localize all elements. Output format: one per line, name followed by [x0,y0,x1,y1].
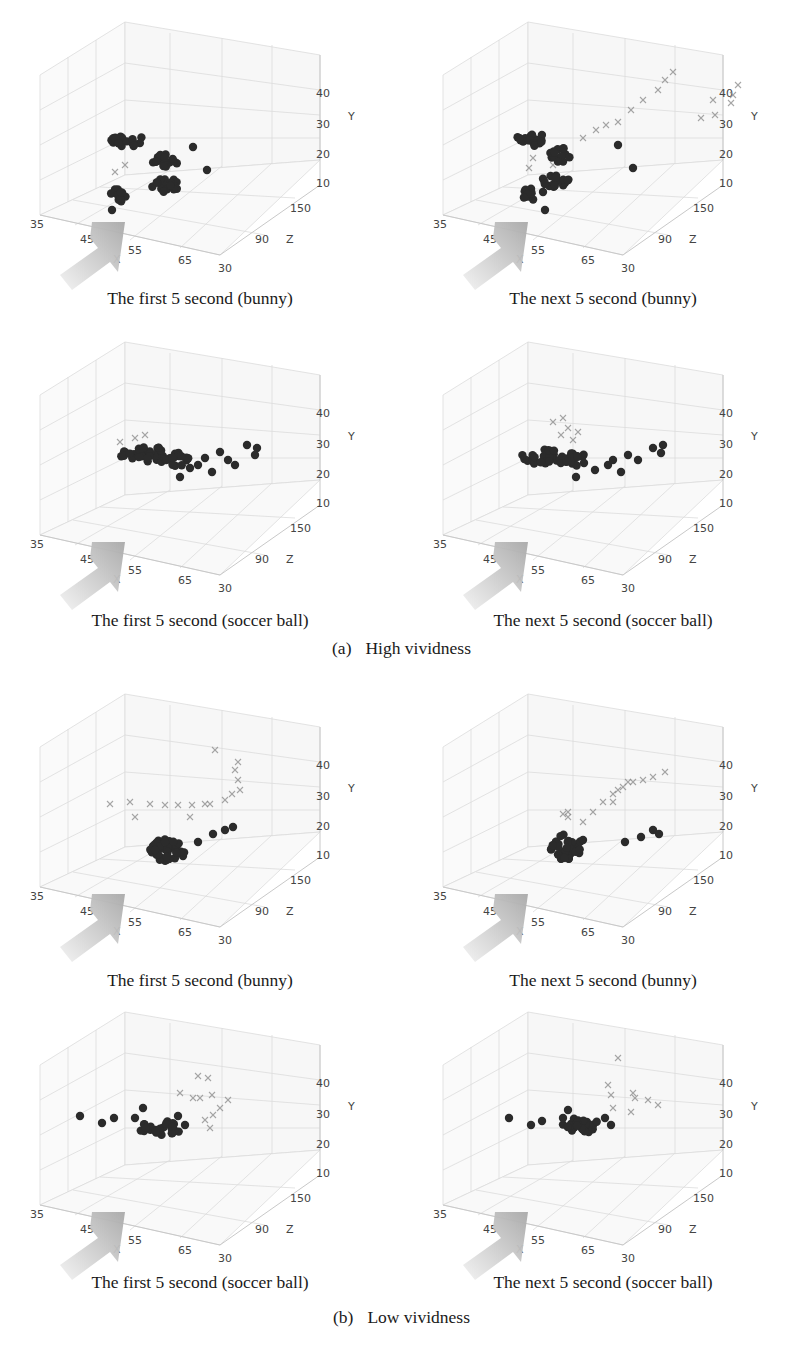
circle-marker [576,845,584,853]
svg-text:10: 10 [719,497,733,510]
viewer-arrow-icon [463,542,528,610]
svg-text:150: 150 [290,202,311,215]
svg-text:55: 55 [531,244,545,257]
svg-text:30: 30 [719,438,733,451]
svg-text:65: 65 [581,574,595,587]
circle-marker [593,1118,601,1126]
circle-marker [601,1114,609,1122]
circle-marker [155,444,163,452]
svg-text:90: 90 [255,1223,269,1236]
svg-text:150: 150 [290,522,311,535]
circle-marker [169,155,177,163]
circle-marker [617,468,625,476]
y-tick-labels: 10 20 30 40 Y [316,1077,355,1180]
circle-marker [591,466,599,474]
circle-marker [251,451,259,459]
circle-marker [152,1127,160,1135]
circle-marker [550,148,558,156]
svg-text:55: 55 [531,916,545,929]
svg-text:Y: Y [347,110,355,123]
circle-marker [550,446,558,454]
svg-text:20: 20 [316,1138,330,1151]
circle-marker [564,176,572,184]
svg-text:10: 10 [316,177,330,190]
scatter-panel-b-4: 35 45 55 65 X 30 90 150 Z 10 20 30 40 [403,990,803,1310]
plot-3d: 35 45 55 65 X 30 90 150 Z 10 20 30 40 [0,320,400,610]
svg-text:55: 55 [128,916,142,929]
circle-marker [520,193,528,201]
svg-text:65: 65 [178,1244,192,1257]
svg-text:30: 30 [719,118,733,131]
circle-marker [579,836,587,844]
svg-text:30: 30 [316,118,330,131]
svg-text:40: 40 [719,407,733,420]
circle-marker [545,457,553,465]
svg-text:20: 20 [316,820,330,833]
circle-marker [537,458,545,466]
circle-marker [142,1124,150,1132]
circle-marker [563,844,571,852]
svg-text:90: 90 [658,553,672,566]
cross-marker [728,100,734,106]
circle-marker [174,1112,182,1120]
circle-marker [609,456,617,464]
circle-marker [201,454,209,462]
circle-marker [541,206,549,214]
circle-marker [231,461,239,469]
circle-marker [114,139,122,147]
circle-marker [573,452,581,460]
svg-text:Z: Z [286,233,294,246]
svg-text:30: 30 [218,262,232,275]
group-label: (a) [332,638,351,658]
circle-marker [189,143,197,151]
circle-marker [143,454,151,462]
circle-marker [565,153,573,161]
group-label: (b) [333,1307,353,1327]
svg-text:55: 55 [531,564,545,577]
y-tick-labels: 10 20 30 40 Y [719,759,758,862]
circle-marker [527,1121,535,1129]
svg-text:20: 20 [719,148,733,161]
circle-marker [564,1106,572,1114]
svg-text:35: 35 [433,890,447,903]
circle-marker [177,452,185,460]
panel-caption: The next 5 second (soccer ball) [403,1272,803,1293]
svg-text:65: 65 [581,254,595,267]
svg-text:40: 40 [316,1077,330,1090]
circle-marker [203,166,211,174]
y-tick-labels: 10 20 30 40 Y [316,407,355,510]
svg-text:35: 35 [433,1208,447,1221]
svg-text:Y: Y [750,1100,758,1113]
svg-text:150: 150 [693,522,714,535]
svg-text:150: 150 [693,874,714,887]
circle-marker [159,188,167,196]
grid [443,694,723,927]
svg-text:Z: Z [689,233,697,246]
svg-text:20: 20 [719,1138,733,1151]
group-title: Low vividness [367,1307,470,1327]
svg-text:35: 35 [433,218,447,231]
scatter-panel-b-3: 35 45 55 65 X 30 90 150 Z 10 20 30 40 [0,990,400,1310]
svg-text:150: 150 [290,874,311,887]
circle-marker [209,830,217,838]
circle-marker [634,456,642,464]
circle-marker [163,853,171,861]
circle-marker [98,1119,106,1127]
svg-text:65: 65 [581,926,595,939]
svg-text:10: 10 [719,1167,733,1180]
circle-marker [649,444,657,452]
svg-text:90: 90 [255,553,269,566]
panel-caption: The first 5 second (soccer ball) [0,1272,400,1293]
svg-text:Y: Y [750,110,758,123]
svg-text:30: 30 [719,1108,733,1121]
svg-text:150: 150 [290,1192,311,1205]
circle-marker [208,468,216,476]
scatter-panel-a-3: 35 45 55 65 X 30 90 150 Z 10 20 30 40 [0,320,400,640]
svg-text:Z: Z [689,905,697,918]
scatter-panel-a-1: 35 45 55 65 X 30 90 150 Z 10 20 30 40 [0,0,400,320]
panel-caption: The next 5 second (bunny) [403,288,803,309]
scatter-panel-a-2: 35 45 55 65 X 30 90 150 Z 10 20 30 40 [403,0,803,320]
circle-marker [159,162,167,170]
svg-text:35: 35 [433,538,447,551]
svg-text:Y: Y [347,1100,355,1113]
